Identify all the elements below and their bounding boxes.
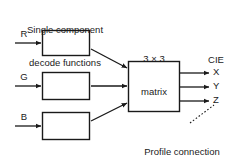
matrix-caption-line2: matrix [124,87,184,98]
decode-box-b-shape [43,113,90,140]
matrix-caption-line1: 3 × 3 [124,54,184,65]
input-label-b: B [17,112,31,123]
output-label-x: X [213,67,227,78]
input-label-g: G [17,72,31,83]
rgb-to-pcs-diagram: Single component decode functions R G B … [0,0,243,155]
outputs-header-cie: CIE [203,55,229,66]
pcs-annotation: Profile connection space (PCS) [123,125,241,155]
diagram-title-line2: decode functions [6,58,124,69]
pcs-leader-line [190,105,214,123]
matrix-caption: 3 × 3 matrix [124,32,184,119]
output-label-z: Z [213,95,227,106]
output-label-y: Y [213,81,227,92]
input-label-r: R [17,29,31,40]
arrow-b-to-matrix [91,103,127,121]
pcs-annotation-line1: Profile connection [123,147,241,155]
